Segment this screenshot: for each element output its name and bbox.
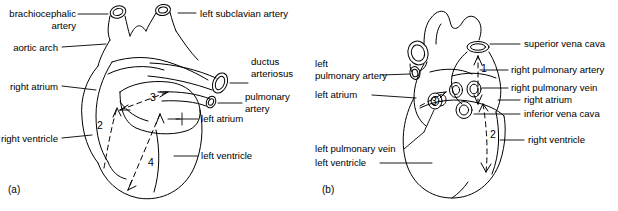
anatomy-figure: brachiocephalic artery aortic arch right…: [0, 0, 618, 211]
flow-arrow-4-a: [128, 114, 160, 190]
label-aortic-arch: aortic arch: [0, 42, 58, 54]
label-right-pulmonary-vein: right pulmonary vein: [511, 82, 597, 94]
label-right-atrium-b: right atrium: [524, 94, 572, 106]
flow-marker-1-b: 1: [481, 62, 487, 74]
left-subclavian-artery-vessel: [146, 3, 176, 31]
ventricles-outline: [98, 110, 202, 199]
leader-aortic-arch: [62, 44, 106, 47]
aortic-arch-crest: [130, 26, 146, 36]
leader-left-pulmonary-vein: [404, 132, 424, 149]
label-superior-vena-cava: superior vena cava: [524, 38, 605, 50]
label-left-pulmonary-vein: left pulmonary vein: [315, 143, 396, 155]
flow-marker-3-a: 3: [150, 91, 156, 103]
label-right-atrium: right atrium: [0, 81, 58, 93]
label-left-atrium-b: left atrium: [315, 89, 357, 101]
leader-right-atrium: [62, 86, 96, 90]
panel-caption-a: (a): [8, 184, 20, 195]
ventricles-outline-b: [403, 98, 505, 198]
aortic-arch: [98, 31, 208, 80]
label-ductus-arteriosus: ductus arteriosus: [251, 56, 293, 79]
flow-marker-2-b: 2: [490, 128, 496, 140]
leader-left-atrium-b: [372, 95, 416, 98]
heart-diagram-drawing: [0, 0, 618, 211]
label-left-atrium: left atrium: [201, 113, 243, 125]
flow-arrow-3-a: [120, 92, 168, 110]
flow-arrow-3-a-head-right: [158, 92, 168, 97]
label-left-ventricle: left ventricle: [201, 150, 252, 162]
panel-caption-b: (b): [322, 184, 334, 195]
leader-left-pulmonary-vein-2: [424, 110, 434, 132]
flow-marker-2-a: 2: [97, 119, 103, 131]
interventricular-groove: [154, 130, 159, 192]
label-left-pulmonary-artery: left pulmonary artery: [315, 58, 387, 81]
left-atrium-outline: [120, 81, 200, 133]
leader-right-ventricle: [62, 135, 92, 138]
aortic-arch-b: [424, 11, 481, 44]
label-brachiocephalic-artery: brachiocephalic artery: [0, 8, 76, 31]
label-pulmonary-artery: pulmonary artery: [245, 91, 290, 114]
label-right-pulmonary-artery: right pulmonary artery: [511, 64, 604, 76]
pulmonary-artery-vessel: [160, 92, 218, 110]
superior-vena-cava-vessel: [467, 42, 489, 53]
label-right-ventricle: right ventricle: [0, 133, 58, 145]
flow-arrow-4-a-head-up: [156, 114, 164, 124]
label-left-ventricle-b: left ventricle: [315, 157, 366, 169]
label-inferior-vena-cava: inferior vena cava: [524, 108, 600, 120]
label-left-subclavian-artery: left subclavian artery: [200, 8, 288, 20]
flow-arrow-2-a: [104, 108, 117, 168]
flow-marker-4-a: 4: [148, 156, 154, 168]
inferior-vena-cava-vessel: [456, 102, 472, 119]
flow-arrow-2-a-head: [113, 108, 121, 117]
flow-marker-3-b: 3: [431, 95, 437, 107]
label-right-ventricle-b: right ventricle: [528, 134, 585, 146]
brachiocephalic-artery-vessel: [108, 4, 130, 40]
